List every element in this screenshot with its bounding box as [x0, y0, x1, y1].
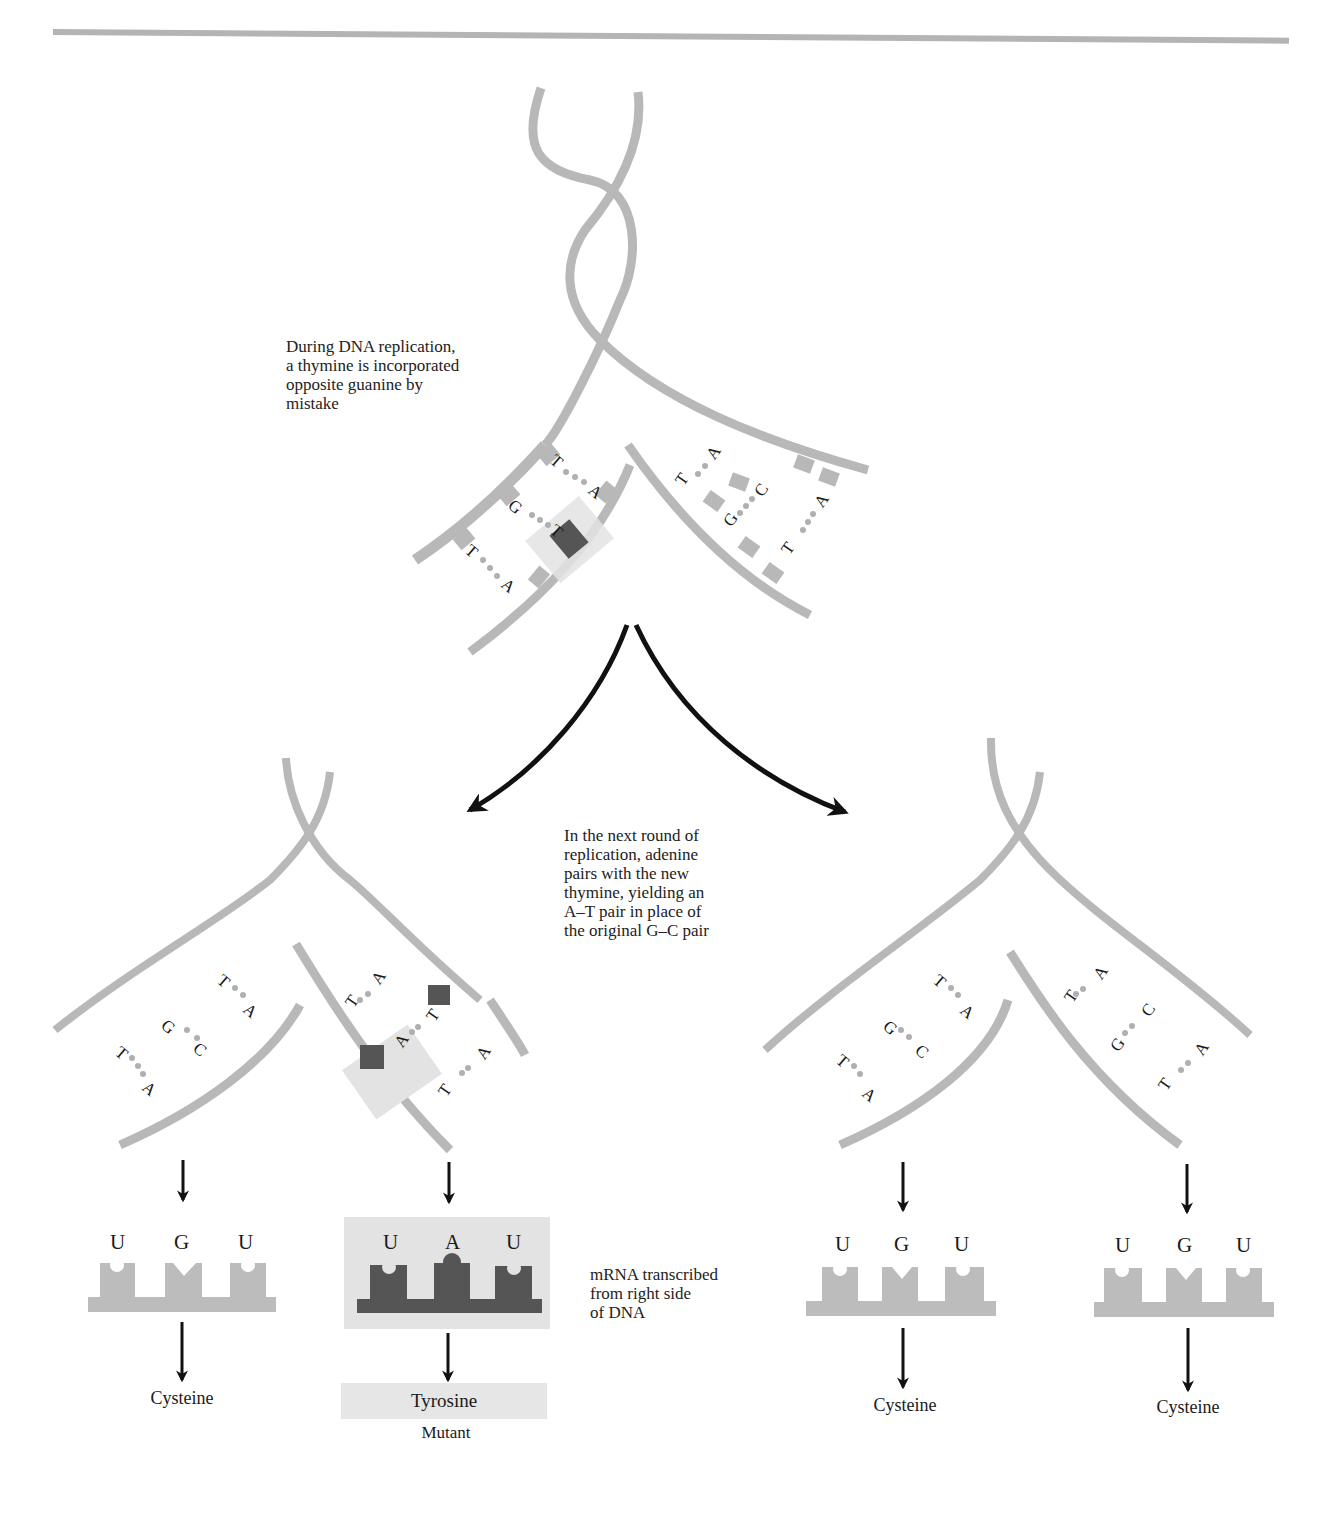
svg-text:A: A — [367, 966, 390, 988]
svg-text:T: T — [671, 469, 693, 489]
bottom-right-fork-bases: T A G C T A T A G C T A — [833, 961, 1214, 1106]
svg-text:A: A — [472, 1041, 495, 1063]
svg-text:A: A — [240, 1000, 262, 1023]
svg-text:T: T — [434, 1080, 456, 1100]
svg-text:C: C — [190, 1039, 211, 1061]
svg-text:U: U — [954, 1232, 969, 1256]
amino-acid-3: Cysteine — [845, 1395, 965, 1416]
svg-text:A: A — [702, 441, 725, 463]
bottom-left-fork-bases: T A G C T A T A A T T A — [112, 966, 496, 1119]
svg-text:T: T — [422, 1005, 444, 1025]
svg-text:T: T — [930, 971, 951, 993]
svg-text:G: G — [158, 1016, 180, 1038]
svg-text:U: U — [383, 1230, 398, 1254]
svg-text:A: A — [1089, 961, 1112, 983]
mrna-codon-1: U G U — [88, 1230, 276, 1312]
svg-text:G: G — [174, 1230, 189, 1254]
mrna-codon-4: U G U — [1094, 1233, 1274, 1317]
svg-text:A: A — [810, 489, 833, 511]
svg-text:T: T — [833, 1051, 854, 1073]
svg-text:A: A — [139, 1078, 161, 1101]
svg-text:T: T — [112, 1043, 133, 1065]
translation-arrows — [182, 1322, 1188, 1390]
svg-text:T: T — [1060, 986, 1082, 1006]
caption-next-round: In the next round of replication, adenin… — [564, 826, 709, 940]
top-fork: T A G T T A T A G C T A — [415, 441, 840, 652]
svg-text:T: T — [777, 538, 799, 558]
svg-text:U: U — [1236, 1233, 1251, 1257]
svg-text:G: G — [894, 1232, 909, 1256]
svg-text:U: U — [110, 1230, 125, 1254]
svg-text:U: U — [1115, 1233, 1130, 1257]
svg-text:A: A — [445, 1230, 461, 1254]
svg-text:A: A — [859, 1084, 881, 1107]
mrna-codon-2-mutant: U A U — [344, 1217, 550, 1329]
split-arrows — [470, 625, 845, 812]
svg-text:A: A — [957, 1001, 979, 1024]
top-dna-helix — [533, 88, 868, 470]
svg-text:A: A — [498, 575, 520, 598]
svg-text:G: G — [1106, 1034, 1129, 1055]
amino-acid-1: Cysteine — [122, 1388, 242, 1409]
caption-mrna: mRNA transcribed from right side of DNA — [590, 1265, 718, 1322]
svg-text:C: C — [1137, 1000, 1159, 1020]
mutant-label: Mutant — [391, 1423, 501, 1443]
amino-acid-2: Tyrosine — [341, 1390, 547, 1412]
caption-replication-error: During DNA replication, a thymine is inc… — [286, 337, 459, 413]
svg-text:T: T — [341, 991, 363, 1011]
svg-text:U: U — [506, 1230, 521, 1254]
mrna-codon-3: U G U — [806, 1232, 996, 1316]
svg-text:C: C — [912, 1041, 933, 1063]
svg-text:U: U — [238, 1230, 253, 1254]
transcription-arrows — [183, 1160, 1187, 1212]
svg-text:G: G — [1177, 1233, 1192, 1257]
svg-text:U: U — [835, 1232, 850, 1256]
amino-acid-4: Cysteine — [1128, 1397, 1248, 1418]
bottom-right-dna — [765, 738, 1250, 1145]
svg-text:A: A — [1190, 1037, 1213, 1059]
svg-text:T: T — [214, 971, 235, 993]
svg-text:G: G — [880, 1017, 902, 1039]
svg-text:T: T — [1154, 1074, 1176, 1094]
